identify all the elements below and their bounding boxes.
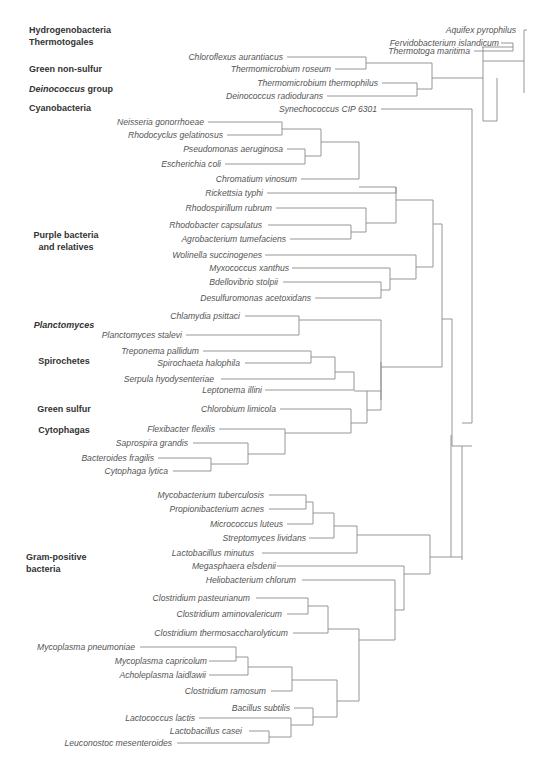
taxon-label: Leuconostoc mesenteroides: [65, 738, 173, 748]
taxon-label: Pseudomonas aeruginosa: [183, 144, 283, 154]
group-label-planctomyces: Planctomyces: [34, 320, 95, 330]
group-label-purple-bacteria: Purple bacteria: [33, 230, 99, 240]
taxon-label: Micrococcus luteus: [210, 519, 284, 529]
taxon-label: Spirochaeta halophila: [157, 358, 240, 368]
taxon-label: Treponema pallidum: [121, 346, 199, 356]
taxon-label: Rickettsia typhi: [205, 188, 264, 198]
taxon-label: Desulfuromonas acetoxidans: [200, 293, 312, 303]
taxon-label: Acholeplasma laidlawii: [119, 670, 208, 680]
taxon-label: Clostridium pasteurianum: [153, 593, 250, 603]
taxon-label: Leptonema illini: [202, 385, 263, 395]
taxon-label: Deinococcus radiodurans: [226, 91, 324, 101]
group-label-hydrogenobacteria: Hydrogenobacteria: [29, 25, 112, 35]
taxon-label: Thermomicrobium roseum: [231, 64, 331, 74]
taxon-label: Chlamydia psittaci: [170, 311, 241, 321]
taxon-label: Planctomyces stalevi: [102, 330, 183, 340]
taxon-label: Serpula hyodysenteriae: [124, 374, 215, 384]
taxon-label: Chloroflexus aurantiacus: [188, 52, 283, 62]
taxon-label: Heliobacterium chlorum: [206, 575, 296, 585]
taxon-label: Chlorobium limicola: [201, 404, 276, 414]
taxon-label: Clostridium thermosaccharolyticum: [154, 628, 288, 638]
taxon-label: Aquifex pyrophilus: [445, 25, 517, 35]
taxon-label: Rhodobacter capsulatus: [169, 220, 262, 230]
taxon-label: Myxococcus xanthus: [209, 263, 289, 273]
taxon-label: Synechococcus CIP 6301: [279, 104, 377, 114]
taxon-label: Escherichia coli: [161, 159, 222, 169]
taxon-label: Thermotoga maritima: [388, 46, 470, 56]
taxon-label: Lactococcus lactis: [125, 713, 195, 723]
group-label-gram-positive-2: bacteria: [26, 564, 62, 574]
taxon-label: Bacillus subtilis: [232, 703, 291, 713]
taxon-label: Thermomicrobium thermophilus: [257, 78, 379, 88]
group-label-green-non-sulfur: Green non-sulfur: [29, 64, 102, 74]
taxon-label: Mycoplasma capricolum: [115, 656, 207, 666]
taxon-label: Lactobacillus minutus: [172, 548, 255, 558]
taxon-label: Flexibacter flexilis: [147, 424, 216, 434]
taxon-label: Bacteroides fragilis: [81, 453, 154, 463]
taxon-label: Neisseria gonorrhoeae: [117, 117, 204, 127]
group-label-thermotogales: Thermotogales: [29, 37, 94, 47]
group-label-green-sulfur: Green sulfur: [37, 404, 91, 414]
taxon-label: Megasphaera elsdenii: [192, 561, 277, 571]
taxon-label: Clostridium aminovalericum: [176, 609, 282, 619]
taxon-label: Lactobacillus casei: [170, 726, 243, 736]
group-label-deinococcus-group: Deinococcus group: [29, 84, 114, 94]
taxon-label: Mycobacterium tuberculosis: [157, 490, 264, 500]
taxon-label: Cytophaga lytica: [104, 466, 168, 476]
taxon-label: Agrobacterium tumefaciens: [180, 234, 286, 244]
group-labels: HydrogenobacteriaThermotogalesGreen non-…: [26, 25, 114, 574]
taxon-label: Wolinella succinogenes: [172, 250, 263, 260]
taxon-label: Clostridium ramosum: [185, 686, 266, 696]
taxon-label: Saprospira grandis: [116, 438, 189, 448]
taxon-label: Rhodocyclus gelatinosus: [128, 130, 224, 140]
taxon-label: Streptomyces lividans: [222, 533, 306, 543]
group-label-purple-bacteria-2: and relatives: [38, 242, 93, 252]
group-label-cyanobacteria: Cyanobacteria: [29, 103, 92, 113]
taxon-labels: Aquifex pyrophilusFervidobacterium islan…: [37, 25, 517, 748]
taxon-label: Bdellovibrio stolpii: [209, 277, 279, 287]
phylogenetic-tree: Aquifex pyrophilusFervidobacterium islan…: [0, 0, 547, 770]
taxon-label: Chromatium vinosum: [216, 174, 297, 184]
group-label-cytophagas: Cytophagas: [38, 425, 90, 435]
group-label-spirochetes: Spirochetes: [38, 356, 90, 366]
group-label-gram-positive: Gram-positive: [26, 552, 87, 562]
taxon-label: Mycoplasma pneumoniae: [37, 642, 135, 652]
taxon-label: Rhodospirillum rubrum: [186, 203, 272, 213]
taxon-label: Propionibacterium acnes: [169, 504, 264, 514]
